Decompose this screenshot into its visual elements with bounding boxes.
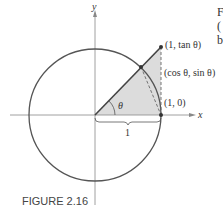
length-brace — [95, 118, 161, 125]
point-one-zero — [159, 113, 163, 117]
point-one-zero-label: (1, 0) — [164, 97, 186, 109]
point-cos-sin-label: (cos θ, sin θ) — [164, 67, 215, 79]
y-axis-label: y — [91, 1, 97, 12]
x-axis-label: x — [197, 109, 203, 120]
segment-label: 1 — [125, 127, 130, 138]
point-tan — [159, 45, 163, 49]
unit-circle-diagram: y x θ 1 (1, tan θ) (cos θ, sin θ) (1, 0)… — [0, 0, 223, 219]
point-cos-sin — [139, 65, 143, 69]
point-tan-label: (1, tan θ) — [165, 39, 201, 51]
edge-text-3: b — [217, 33, 223, 47]
x-axis-arrow-icon — [189, 113, 196, 117]
edge-text-2: ( — [217, 19, 221, 33]
edge-text-1: F — [217, 5, 223, 19]
angle-label: θ — [118, 100, 123, 111]
figure-caption: FIGURE 2.16 — [22, 195, 88, 207]
